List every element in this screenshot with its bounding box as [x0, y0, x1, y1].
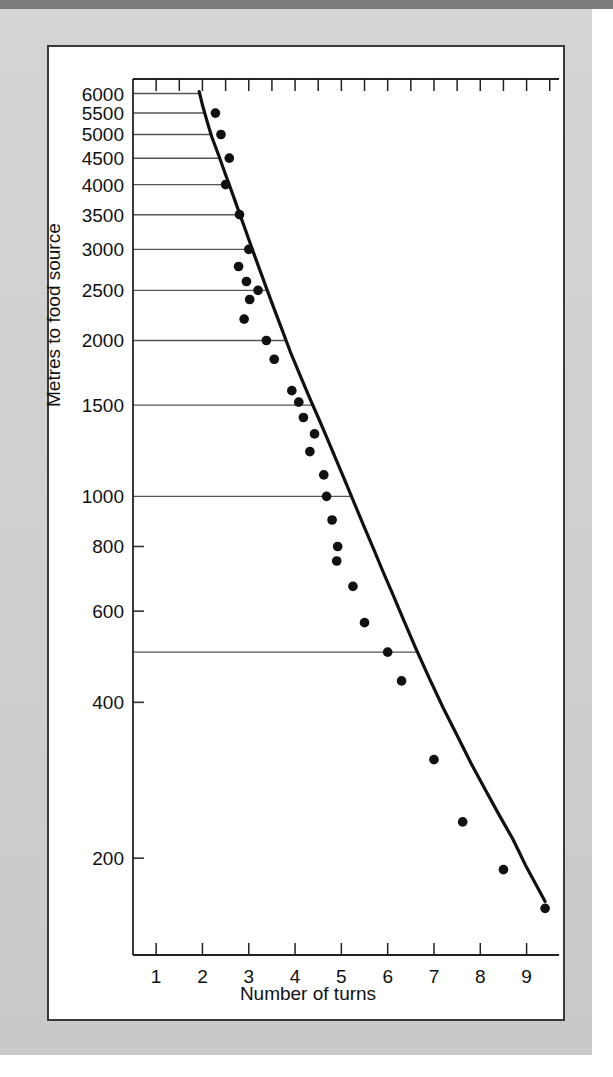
- y-tick-labels-group: 2004006008001000150020002500300035004000…: [82, 84, 124, 870]
- data-point: [458, 817, 468, 827]
- screenshot-root: 2004006008001000150020002500300035004000…: [0, 0, 613, 1077]
- data-point: [242, 277, 252, 287]
- y-tick-label: 6000: [82, 84, 124, 105]
- scatter-chart: 2004006008001000150020002500300035004000…: [49, 47, 567, 1023]
- y-tick-label: 3000: [82, 239, 124, 260]
- figure-card: 2004006008001000150020002500300035004000…: [47, 45, 565, 1021]
- data-point: [397, 676, 407, 686]
- data-point: [383, 647, 393, 657]
- y-tick-label: 2500: [82, 280, 124, 301]
- data-point: [348, 582, 358, 592]
- y-axis-title: Metres to food source: [43, 223, 65, 407]
- y-tick-label: 3500: [82, 205, 124, 226]
- y-tick-label: 4500: [82, 148, 124, 169]
- y-tick-label: 5000: [82, 124, 124, 145]
- data-point: [234, 262, 244, 272]
- data-point: [540, 903, 550, 913]
- data-point: [294, 397, 304, 407]
- y-tick-label: 5500: [82, 103, 124, 124]
- y-tick-label: 4000: [82, 175, 124, 196]
- data-point: [245, 295, 255, 305]
- axes-group: [133, 79, 559, 955]
- y-tick-label: 200: [92, 848, 124, 869]
- data-point: [332, 556, 342, 566]
- data-point: [319, 470, 329, 480]
- data-point: [216, 130, 226, 140]
- data-points-group: [211, 108, 550, 913]
- y-tick-label: 400: [92, 692, 124, 713]
- plot-area: 2004006008001000150020002500300035004000…: [49, 47, 567, 1023]
- x-axis-title: Number of turns: [49, 983, 567, 1005]
- data-point: [269, 354, 279, 364]
- data-point: [429, 755, 439, 765]
- y-tick-label: 2000: [82, 330, 124, 351]
- data-point: [360, 618, 370, 628]
- data-point: [211, 108, 221, 118]
- top-dark-band: [0, 0, 613, 9]
- data-point: [253, 286, 263, 296]
- y-tick-label: 1500: [82, 395, 124, 416]
- data-point: [333, 542, 343, 552]
- data-point: [287, 386, 297, 396]
- data-point: [244, 245, 254, 255]
- y-tick-label: 1000: [82, 486, 124, 507]
- data-point: [235, 210, 245, 220]
- gridlines-group: [133, 94, 417, 859]
- data-point: [322, 491, 332, 501]
- data-point: [221, 180, 231, 190]
- y-tick-label: 600: [92, 601, 124, 622]
- y-tick-label: 800: [92, 536, 124, 557]
- data-point: [305, 447, 315, 457]
- data-point: [239, 314, 249, 324]
- data-point: [262, 336, 272, 346]
- data-point: [224, 153, 234, 163]
- data-point: [499, 865, 509, 875]
- data-point: [299, 413, 309, 423]
- data-point: [310, 429, 320, 439]
- data-point: [327, 515, 337, 525]
